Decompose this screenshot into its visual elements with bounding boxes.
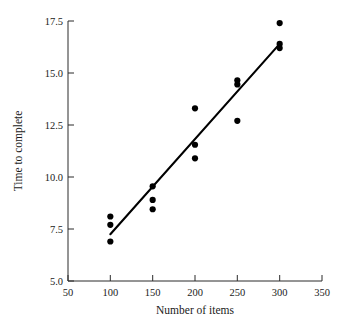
y-tick-label-12-5: 12.5 xyxy=(45,120,63,131)
data-point xyxy=(234,118,240,124)
data-point xyxy=(150,206,156,212)
data-point xyxy=(150,183,156,189)
data-point xyxy=(192,105,198,111)
x-tick-label-350: 350 xyxy=(314,287,330,298)
x-axis-title: Number of items xyxy=(156,304,234,316)
data-point xyxy=(107,213,113,219)
y-tick-label-5-0: 5.0 xyxy=(50,276,63,287)
y-axis-title: Time to complete xyxy=(12,111,25,192)
x-tick-label-150: 150 xyxy=(145,287,161,298)
plot-svg: 17.5 15.0 12.5 10.0 7.5 5.0 50 100 150 2… xyxy=(0,0,338,329)
regression-line xyxy=(110,44,279,234)
scatter-plot-figure: 17.5 15.0 12.5 10.0 7.5 5.0 50 100 150 2… xyxy=(0,0,338,329)
data-point xyxy=(234,81,240,87)
data-point xyxy=(192,155,198,161)
y-axis-tick-labels: 17.5 15.0 12.5 10.0 7.5 5.0 xyxy=(45,16,63,287)
x-tick-label-200: 200 xyxy=(187,287,203,298)
data-point xyxy=(277,45,283,51)
x-tick-label-50: 50 xyxy=(63,287,74,298)
data-points-group xyxy=(107,20,283,245)
y-tick-label-15-0: 15.0 xyxy=(45,68,63,79)
x-tick-label-250: 250 xyxy=(229,287,245,298)
y-axis-ticks xyxy=(68,21,74,281)
data-point xyxy=(150,197,156,203)
y-tick-label-17-5: 17.5 xyxy=(45,16,63,27)
x-tick-label-300: 300 xyxy=(272,287,288,298)
y-tick-label-10-0: 10.0 xyxy=(45,172,63,183)
data-point xyxy=(192,142,198,148)
data-point xyxy=(277,20,283,26)
y-tick-label-7-5: 7.5 xyxy=(50,224,63,235)
data-point xyxy=(107,238,113,244)
axis-frame xyxy=(68,21,322,281)
x-axis-ticks xyxy=(68,275,322,281)
data-point xyxy=(107,222,113,228)
x-axis-tick-labels: 50 100 150 200 250 300 350 xyxy=(63,287,330,298)
x-tick-label-100: 100 xyxy=(102,287,118,298)
